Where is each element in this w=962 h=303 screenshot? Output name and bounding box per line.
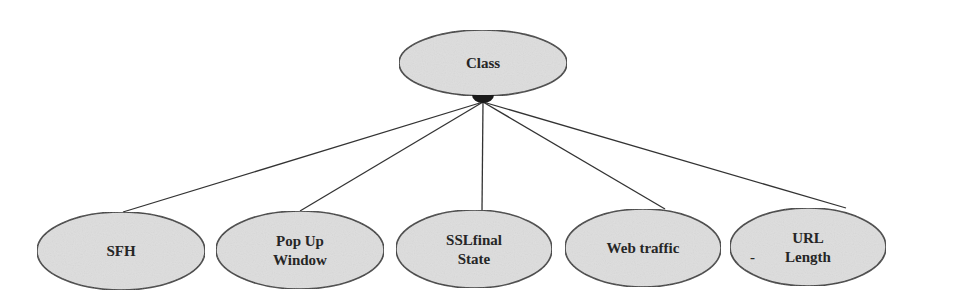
node-pop-up-window: Pop UpWindow	[216, 211, 384, 289]
pop-up-window-label-line-2: Window	[273, 252, 327, 268]
sslfinal-state-label-line-2: State	[458, 251, 491, 267]
url-length-dash-mark: -	[750, 249, 755, 265]
url-length-label-line-2: Length	[785, 249, 832, 265]
junction-hub-icon	[472, 95, 494, 103]
sslfinal-state-ellipse	[396, 210, 552, 288]
class-label: Class	[466, 55, 500, 71]
edge-class-to-url-length	[483, 102, 846, 208]
tree-diagram: Class SFHPop UpWindowSSLfinalStateWeb tr…	[0, 0, 962, 303]
node-class: Class	[399, 30, 567, 96]
edge-class-to-sfh	[123, 102, 483, 212]
pop-up-window-label-line-1: Pop Up	[276, 233, 324, 249]
sslfinal-state-label-line-1: SSLfinal	[446, 232, 502, 248]
child-nodes-group: SFHPop UpWindowSSLfinalStateWeb trafficU…	[37, 208, 886, 290]
node-url-length: URLLength-	[730, 208, 886, 286]
url-length-ellipse	[730, 208, 886, 286]
sfh-label-line-1: SFH	[106, 243, 136, 259]
edge-class-to-pop-up-window	[300, 102, 483, 211]
node-sslfinal-state: SSLfinalState	[396, 210, 552, 288]
url-length-label-line-1: URL	[792, 230, 824, 246]
edges-group	[123, 102, 846, 212]
web-traffic-label-line-1: Web traffic	[607, 240, 680, 256]
pop-up-window-ellipse	[216, 211, 384, 289]
edge-class-to-web-traffic	[483, 102, 665, 209]
node-web-traffic: Web traffic	[565, 209, 721, 287]
node-sfh: SFH	[37, 212, 205, 290]
edge-class-to-sslfinal-state	[482, 102, 483, 210]
